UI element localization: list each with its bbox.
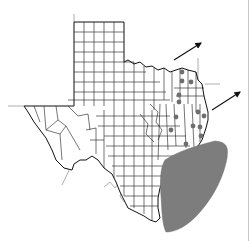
location-marker <box>196 110 201 115</box>
location-marker <box>174 115 179 120</box>
texas-county-map <box>0 0 249 241</box>
location-marker <box>177 100 182 105</box>
location-marker <box>169 128 174 133</box>
location-marker <box>180 70 185 75</box>
location-marker <box>191 124 196 129</box>
arrow-northeast-icon <box>212 92 240 110</box>
location-marker <box>198 125 203 130</box>
location-marker <box>184 142 189 147</box>
arrow-northeast-icon <box>174 43 201 60</box>
location-marker <box>199 134 204 139</box>
location-marker <box>189 80 194 85</box>
location-marker <box>177 93 182 98</box>
location-marker <box>180 79 185 84</box>
right-edge-border <box>248 0 249 241</box>
location-marker <box>202 114 207 119</box>
